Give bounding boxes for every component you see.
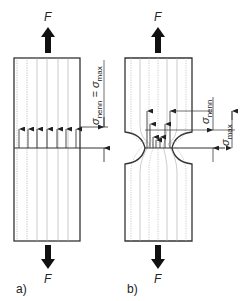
force-arrow-top-a: [41, 27, 55, 53]
force-arrow-top-b: [151, 27, 165, 53]
flow-lines-a: [17, 58, 27, 241]
force-label-bottom-b: F: [154, 272, 161, 286]
panel-label-a: a): [16, 282, 27, 296]
panel-b: [125, 27, 235, 269]
diagram-canvas: [0, 0, 241, 301]
stress-max-label-b: σmax: [219, 124, 234, 146]
bar-b: [125, 58, 192, 241]
force-label-bottom-a: F: [44, 272, 51, 286]
stress-arrows-b: [147, 111, 170, 148]
stress-label-a: σnenn = σmax: [89, 66, 104, 125]
stress-arrows-a: [19, 129, 76, 148]
force-label-top-b: F: [154, 10, 161, 24]
force-arrow-bottom-b: [151, 245, 165, 269]
stress-nominal-label-b: σnenn: [199, 100, 214, 124]
panel-label-b: b): [127, 282, 138, 296]
force-arrow-bottom-a: [41, 245, 55, 269]
flow-lines-b: [131, 58, 186, 241]
panel-a: [14, 27, 108, 269]
force-label-top-a: F: [44, 10, 51, 24]
flow-lines-solid-a: [37, 58, 68, 241]
